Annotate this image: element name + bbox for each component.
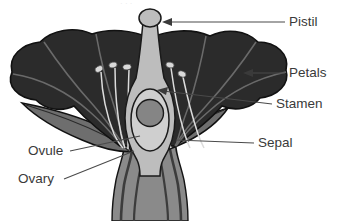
ovule [137,100,164,127]
label-stamen: Stamen [276,96,323,111]
flower-anatomy-diagram: · · · [0,0,339,221]
flower-diagram-page: · · · [0,0,339,221]
page-header-artifact: · · · [120,0,132,8]
label-ovule: Ovule [28,143,63,158]
label-ovary: Ovary [18,171,54,186]
label-petals: Petals [289,65,327,80]
label-pistil: Pistil [289,14,318,29]
label-sepal: Sepal [258,135,293,150]
leader-arrowhead-pistil [162,18,172,26]
stigma [139,9,161,27]
